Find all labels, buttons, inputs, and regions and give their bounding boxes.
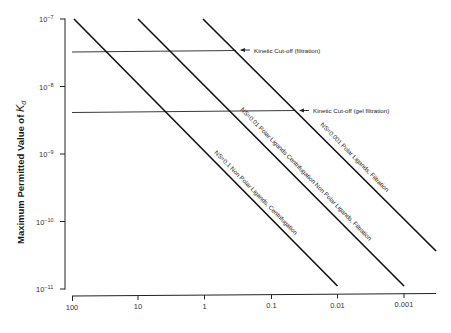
- svg-text:10: 10: [134, 302, 142, 311]
- kinetic-cutoff-filtration-label: Kinetic Cut-off (filtration): [254, 47, 320, 54]
- series-line-ns-0.1: [74, 19, 338, 286]
- svg-text:10−9: 10−9: [39, 149, 54, 159]
- x-axis-line: [72, 294, 436, 297]
- svg-text:10−8: 10−8: [39, 82, 54, 92]
- y-axis-title: Maximum Permitted Value of Kd: [14, 100, 27, 244]
- svg-text:100: 100: [66, 303, 79, 312]
- kinetic-cutoff-gel-filtration-line: [72, 111, 295, 113]
- arrow-icon: [240, 48, 250, 52]
- y-ticks: [60, 19, 65, 289]
- svg-text:0.01: 0.01: [330, 301, 345, 310]
- svg-text:10−10: 10−10: [36, 217, 54, 227]
- series-label-ns-0.1: NS=0.1 Non Polar Ligands, Centrifugation: [213, 149, 299, 236]
- svg-text:10−7: 10−7: [39, 14, 54, 24]
- kd-chart: 10−7 10−8 10−9 10−10 10−11 Maximum Permi…: [0, 0, 451, 333]
- svg-text:0.001: 0.001: [395, 300, 414, 309]
- series-label-ns-0.01: NS=0.01 Polar Ligands Centrifugation Non…: [239, 106, 373, 242]
- svg-text:10−11: 10−11: [36, 284, 53, 294]
- arrow-icon: [299, 109, 309, 113]
- svg-text:0.1: 0.1: [266, 301, 276, 310]
- series-line-ns-0.01: [138, 19, 404, 286]
- series-label-ns-0.001: NS=0.001 Polar Ligands, Filtration: [319, 121, 391, 194]
- kinetic-cutoff-filtration-line: [72, 51, 236, 53]
- x-tick-labels: 100 10 1 0.1 0.01 0.001: [66, 300, 414, 312]
- y-tick-labels: 10−7 10−8 10−9 10−10 10−11: [36, 14, 54, 294]
- kinetic-cutoff-gel-filtration-label: Kinetic Cut-off (gel filtration): [313, 107, 389, 114]
- svg-text:1: 1: [202, 302, 206, 311]
- series-line-ns-0.001: [203, 19, 436, 251]
